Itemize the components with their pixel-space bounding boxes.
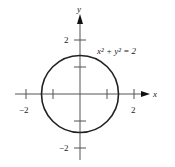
circle-graph: x y −2 2 2 −2 x² + y² = 2 xyxy=(0,0,175,167)
y-axis-label: y xyxy=(76,4,81,14)
x-tick-label-neg2: −2 xyxy=(19,105,29,115)
equation-label: x² + y² = 2 xyxy=(96,46,137,56)
x-axis-label: x xyxy=(152,89,157,99)
x-tick-label-2: 2 xyxy=(131,105,136,115)
y-tick-label-2: 2 xyxy=(64,35,69,45)
x-axis-arrow-icon xyxy=(141,91,150,97)
y-tick-label-neg2: −2 xyxy=(59,143,69,153)
y-axis-arrow-icon xyxy=(77,14,83,24)
